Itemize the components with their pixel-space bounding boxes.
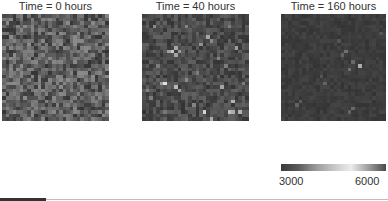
panel-title-time-160: Time = 160 hours [280, 0, 387, 13]
colorbar-min-label: 3000 [279, 175, 303, 187]
heatmap-time-0 [2, 14, 109, 121]
bottom-divider-accent [0, 198, 46, 201]
bottom-divider [0, 199, 388, 200]
heatmap-time-160 [281, 14, 386, 121]
panel-title-time-0: Time = 0 hours [2, 0, 109, 13]
heatmap-time-40 [142, 14, 249, 121]
colorbar [281, 164, 386, 171]
colorbar-max-label: 6000 [355, 175, 379, 187]
panel-title-time-40: Time = 40 hours [142, 0, 249, 13]
